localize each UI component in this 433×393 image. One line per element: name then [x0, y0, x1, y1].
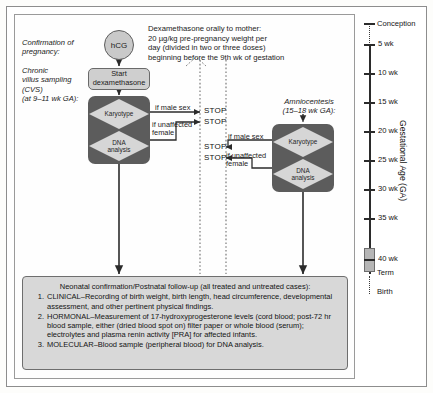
ga-label-birth: Birth [377, 287, 393, 296]
cvs-dna-analysis-node[interactable]: DNA analysis [89, 131, 149, 161]
condition-cvs-unaffected-female: if unaffected female [152, 121, 204, 138]
ga-label-30wk: 30 wk [378, 184, 398, 193]
ga-label-25wk: 25 wk [378, 155, 398, 164]
ga-axis-title: Gestational Age (GA) [398, 120, 408, 201]
ga-label-conception: Conception [377, 19, 415, 28]
ga-label-20wk: 20 wk [378, 126, 398, 135]
flowchart-page: Confirmation ofpregnancy: Chronicvillus … [0, 0, 433, 393]
panel-item-text: CLINICAL–Recording of birth weight, birt… [47, 292, 339, 311]
condition-amnio-unaffected-female: if unaffected female [226, 152, 274, 169]
panel-item-text: HORMONAL–Measurement of 17-hydroxyproges… [47, 312, 339, 340]
amniocentesis-decision-group[interactable]: Karyotype DNA analysis [272, 124, 334, 192]
stop-label-cvs-female: STOP [204, 117, 226, 126]
cvs-dna-line1: DNA [112, 139, 126, 146]
ga-axis-line [369, 44, 371, 274]
ga-label-35wk: 35 wk [378, 213, 398, 222]
hcg-label: hCG [111, 41, 127, 50]
panel-item-hormonal: 2. HORMONAL–Measurement of 17-hydroxypro… [31, 312, 339, 340]
cvs-decision-group[interactable]: Karyotype DNA analysis [88, 96, 150, 164]
start-dexamethasone-line2: dexamethasone [93, 79, 146, 88]
stop-label-amnio-male: STOP [204, 142, 226, 151]
condition-cvs-unaffected-female-line2: female [152, 129, 204, 137]
dexamethasone-dosing-note: Dexamethasone orally to mother:20 µg/kg … [148, 24, 333, 62]
panel-item-number: 1. [31, 292, 47, 311]
amnio-dna-line1: DNA [296, 167, 310, 174]
panel-title: Neonatal confirmation/Postnatal follow-u… [31, 282, 339, 291]
panel-item-molecular: 3. MOLECULAR–Blood sample (peripheral bl… [31, 340, 339, 349]
cvs-dna-line2: analysis [107, 146, 130, 153]
ga-axis-top-cap [364, 23, 375, 25]
neonatal-followup-panel: Neonatal confirmation/Postnatal follow-u… [22, 276, 348, 370]
stop-label-amnio-female: STOP [204, 153, 226, 162]
ga-tick-15wk [364, 102, 375, 104]
hcg-node[interactable]: hCG [104, 30, 134, 60]
condition-cvs-male-sex: if male sex [155, 104, 190, 112]
ga-tick-35wk [364, 218, 375, 220]
ga-label-5wk: 5 wk [378, 39, 394, 48]
ga-tick-30wk [364, 189, 375, 191]
ga-label-40wk: 40 wk [378, 254, 398, 263]
panel-item-number: 3. [31, 340, 47, 349]
ga-axis-dotted-top [369, 24, 370, 45]
confirmation-of-pregnancy-note: Confirmation ofpregnancy: [22, 38, 114, 57]
start-dexamethasone-node[interactable]: Start dexamethasone [88, 68, 150, 90]
cvs-karyotype-label: Karyotype [105, 110, 134, 117]
cvs-karyotype-node[interactable]: Karyotype [89, 99, 149, 129]
condition-amnio-male-sex: if male sex [228, 133, 263, 141]
ga-label-15wk: 15 wk [378, 97, 398, 106]
amniocentesis-note: Amniocentesis(15–18 wk GA): [266, 97, 352, 116]
condition-amnio-unaffected-female-line2: female [226, 160, 274, 168]
stop-label-cvs-male: STOP [204, 106, 226, 115]
panel-item-text: MOLECULAR–Blood sample (peripheral blood… [47, 340, 339, 349]
ga-tick-10wk [364, 73, 375, 75]
panel-item-clinical: 1. CLINICAL–Recording of birth weight, b… [31, 292, 339, 311]
panel-item-number: 2. [31, 312, 47, 340]
ga-label-term: Term [377, 268, 394, 277]
amnio-karyotype-label: Karyotype [289, 138, 318, 145]
amnio-karyotype-node[interactable]: Karyotype [273, 127, 333, 157]
amnio-dna-analysis-node[interactable]: DNA analysis [273, 159, 333, 189]
ga-tick-40wk [364, 259, 375, 261]
ga-axis-dotted-bottom [369, 276, 370, 294]
ga-label-10wk: 10 wk [378, 68, 398, 77]
ga-tick-5wk [364, 44, 375, 46]
ga-tick-25wk [364, 160, 375, 162]
ga-tick-20wk [364, 131, 375, 133]
amnio-dna-line2: analysis [291, 174, 314, 181]
